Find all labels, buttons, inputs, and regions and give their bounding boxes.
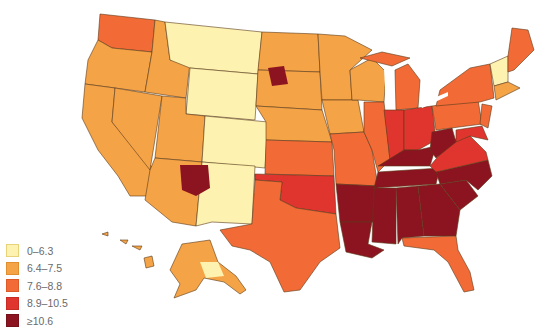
lake-michigan xyxy=(384,70,394,104)
legend-swatch xyxy=(6,279,19,292)
state-florida xyxy=(402,236,474,292)
state-wyoming xyxy=(186,68,258,120)
legend-item: 6.4–7.5 xyxy=(6,260,68,278)
state-arkansas xyxy=(336,184,378,222)
state-michigan xyxy=(395,64,420,110)
legend-label: 7.6–8.8 xyxy=(27,280,62,292)
legend-item: 7.6–8.8 xyxy=(6,277,68,295)
legend-label: 8.9–10.5 xyxy=(27,297,68,309)
legend-label: ≥10.6 xyxy=(27,315,53,327)
state-maine xyxy=(508,28,534,72)
legend-label: 6.4–7.5 xyxy=(27,262,62,274)
legend-swatch xyxy=(6,314,19,327)
state-vermont-nh xyxy=(490,56,508,86)
state-colorado xyxy=(202,116,268,168)
legend-swatch xyxy=(6,262,19,275)
legend-swatch xyxy=(6,244,19,257)
state-mississippi xyxy=(372,188,396,244)
legend-item: 8.9–10.5 xyxy=(6,295,68,313)
map-legend: 0–6.3 6.4–7.5 7.6–8.8 8.9–10.5 ≥10.6 xyxy=(6,242,68,330)
legend-item: 0–6.3 xyxy=(6,242,68,260)
state-hawaii xyxy=(102,232,154,268)
state-new-york xyxy=(436,64,494,106)
legend-label: 0–6.3 xyxy=(27,245,53,257)
state-new-jersey xyxy=(480,104,492,128)
state-south-dakota xyxy=(256,70,322,110)
state-nebraska xyxy=(256,106,332,142)
us-choropleth-map xyxy=(0,0,544,331)
legend-swatch xyxy=(6,297,19,310)
state-north-dakota xyxy=(258,32,320,72)
state-kansas xyxy=(265,140,334,176)
legend-item: ≥10.6 xyxy=(6,312,68,330)
state-mass-ct-ri xyxy=(494,82,520,100)
state-iowa xyxy=(322,100,364,134)
